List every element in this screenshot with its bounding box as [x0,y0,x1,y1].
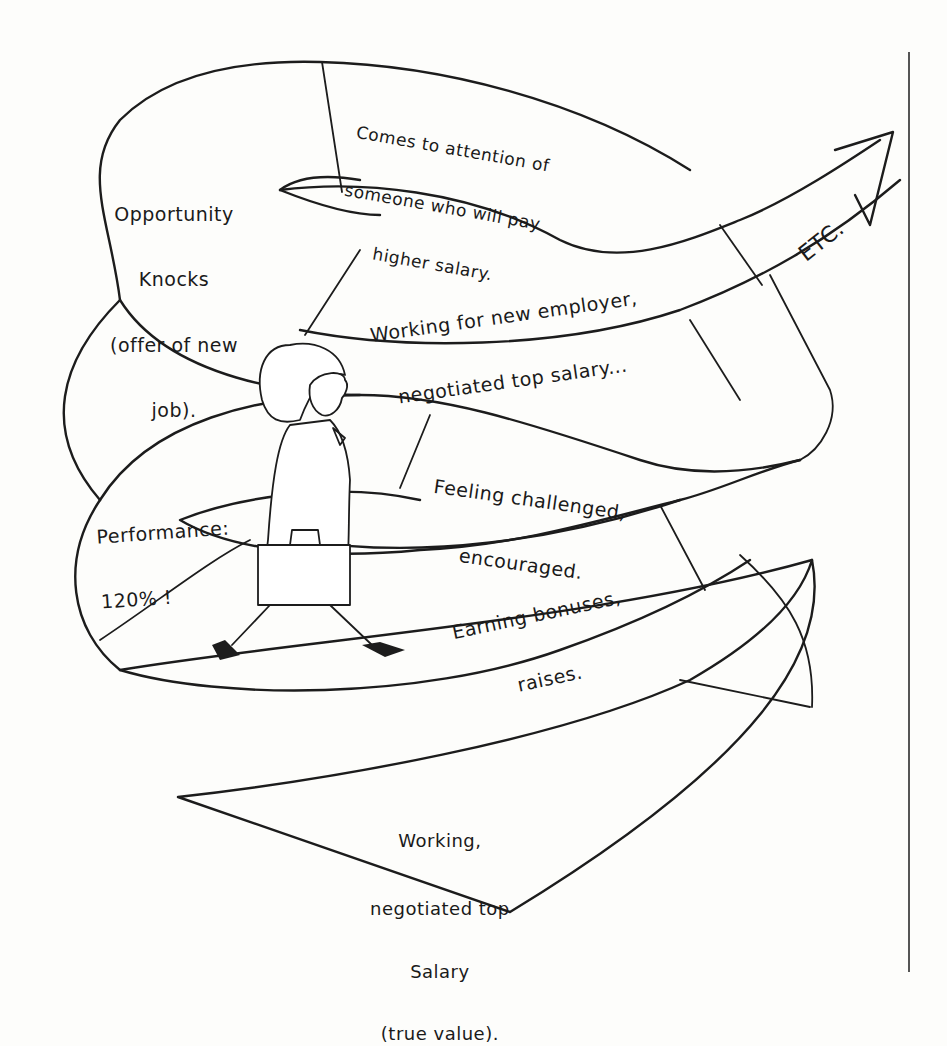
label-working-true-value: Working, negotiated top Salary (true val… [370,790,510,1046]
label-line: raises. [464,651,637,708]
divider-5 [740,555,812,707]
arrowhead-icon [835,132,893,225]
divider-3 [660,505,705,590]
label-feeling-challenged: Feeling challenged, encouraged. [420,432,633,610]
label-line: someone who will pay [343,180,542,234]
briefcase-icon [258,545,350,605]
label-line: Knocks [110,269,238,291]
label-line: job). [110,400,238,422]
label-line: Working, [370,831,510,852]
label-performance: Performance: 120% ! [93,474,236,636]
label-line: (offer of new [110,335,238,357]
face [310,373,348,416]
label-line: (true value). [370,1024,510,1045]
upper-divider-3 [720,225,762,285]
label-line: Performance: [96,517,230,548]
label-line: Comes to attention of [353,123,552,177]
label-line: negotiated top [370,899,510,920]
label-line: Opportunity [110,204,238,226]
label-line: encouraged. [423,540,618,589]
divider-4 [680,680,810,707]
label-line: Salary [370,962,510,983]
upper-divider-5 [690,320,740,400]
label-line: Working for new employer, [369,287,639,346]
upper-divider-1 [322,62,342,192]
label-opportunity-knocks: Opportunity Knocks (offer of new job). [110,160,238,444]
label-line: Feeling challenged, [432,476,627,525]
label-line: 120% ! [100,583,234,614]
upper-divider-4 [770,275,833,460]
right-shoe [362,642,405,657]
